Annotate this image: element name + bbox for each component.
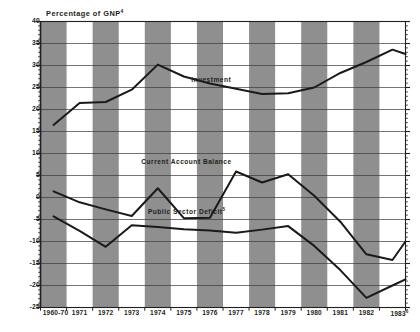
series-label-text: Investment: [191, 76, 231, 83]
series-label-superscript: 5: [223, 208, 226, 213]
series-label-2: Public Sector Deficit5: [148, 209, 225, 217]
chart-figure: Percentage of GNP4 4035302520151050-5-10…: [0, 0, 420, 332]
series-labels: InvestmentCurrent Account BalancePublic …: [0, 0, 420, 332]
series-label-text: Current Account Balance: [141, 158, 231, 165]
series-label-0: Investment: [191, 77, 231, 84]
series-label-text: Public Sector Deficit: [148, 209, 223, 216]
series-label-1: Current Account Balance: [141, 159, 231, 166]
